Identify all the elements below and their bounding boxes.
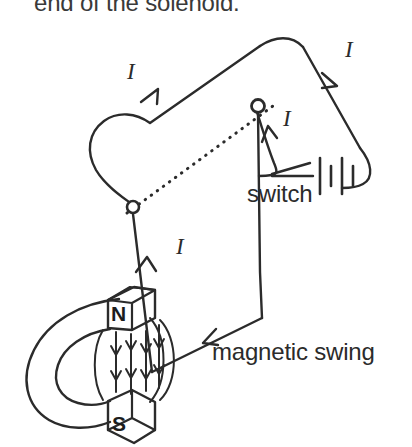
magnet-inner-arc — [56, 329, 110, 405]
wire-right-rail — [303, 47, 360, 148]
pivot-ring-right — [252, 100, 265, 113]
switch-label: switch — [247, 182, 312, 206]
caption-end-of-solenoid: end of the solenoid. — [34, 0, 240, 15]
magnet-south-pole-label: S — [112, 413, 126, 434]
current-label-swing-riser: I — [176, 235, 184, 258]
pivot-ring-left — [127, 201, 139, 213]
current-label-right-rail: I — [345, 38, 353, 61]
wire-battery-right-lead — [342, 148, 370, 188]
field-arc-outer-left — [95, 330, 103, 400]
wire-left-rail — [90, 46, 260, 206]
field-arc-outer-right — [160, 320, 174, 400]
field-arc-outer-right-2 — [150, 318, 164, 402]
magnet-outer-arc — [27, 299, 119, 428]
switch-blade — [272, 163, 310, 174]
field-lines — [111, 325, 164, 394]
switch-left-lead — [257, 112, 276, 176]
wire-apex — [260, 38, 303, 47]
magnetic-swing-figure: end of the solenoid. I I I I switch magn… — [0, 0, 412, 447]
current-label-switch-lead: I — [283, 107, 291, 130]
arrow-current-left-rail — [141, 89, 158, 104]
diagram-canvas — [0, 0, 412, 447]
magnetic-swing-label: magnetic swing — [212, 340, 375, 364]
swing-right-hanger — [258, 113, 262, 318]
magnet-north-pole-label: N — [111, 303, 126, 324]
arrow-current-switch-lead — [262, 126, 277, 142]
current-label-left-rail: I — [127, 60, 135, 83]
